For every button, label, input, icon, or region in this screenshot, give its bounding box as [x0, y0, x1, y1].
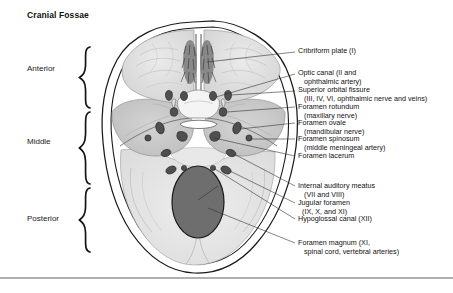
- callout-superior-orbital-fissure: Superior orbital fissure (III, IV, VI, o…: [298, 86, 427, 103]
- callout-foramen-spinosum: Foramen spinosum (middle meningeal arter…: [298, 135, 385, 152]
- callout-foramen-magnum: Foramen magnum (XI, spinal cord, vertebr…: [298, 239, 399, 256]
- callout-foramen-lacerum: Foramen lacerum: [298, 152, 354, 161]
- callout-internal-auditory-meatus: Internal auditory meatus (VII and VIII): [298, 182, 375, 199]
- callout-hypoglossal-canal: Hypoglossal canal (XII): [298, 215, 372, 224]
- callout-optic-canal: Optic canal (II and ophthalmic artery): [298, 69, 362, 86]
- bottom-divider: [0, 277, 453, 279]
- callout-list: Cribriform plate (I) Optic canal (II and…: [0, 0, 453, 293]
- callout-cribriform-plate: Cribriform plate (I): [298, 47, 356, 56]
